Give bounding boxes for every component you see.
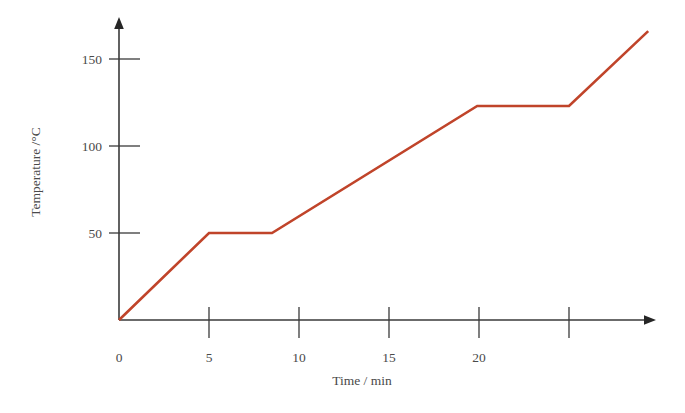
x-tick-label-10: 10	[292, 350, 306, 365]
temperature-time-plot: 50100150 05101520 Time / min Temperature…	[0, 0, 685, 413]
chart-figure: 50100150 05101520 Time / min Temperature…	[0, 0, 685, 413]
x-tick-label-0: 0	[116, 350, 123, 365]
y-axis-title: Temperature /°C	[28, 127, 43, 217]
x-axis-title: Time / min	[332, 373, 392, 388]
y-tick-label-100: 100	[82, 139, 103, 154]
y-tick-label-150: 150	[82, 52, 103, 67]
x-tick-label-20: 20	[472, 350, 486, 365]
y-tick-label-50: 50	[89, 226, 103, 241]
x-tick-label-5: 5	[206, 350, 213, 365]
x-tick-label-15: 15	[382, 350, 396, 365]
chart-background	[0, 0, 685, 413]
